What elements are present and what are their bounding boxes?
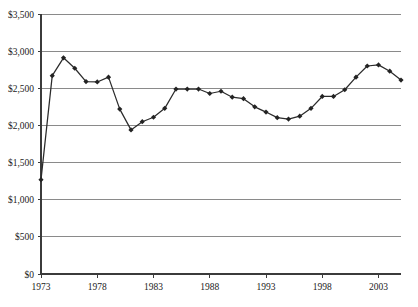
data-point-marker: [331, 94, 336, 99]
y-axis-tick-label: $3,000: [8, 47, 34, 57]
data-point-marker: [263, 109, 268, 114]
data-point-marker: [218, 89, 223, 94]
data-point-marker: [38, 177, 43, 182]
gridlines-group: [41, 14, 401, 274]
y-axis-tick-label: $2,000: [8, 121, 34, 131]
line-chart: $0$500$1,000$1,500$2,000$2,500$3,000$3,5…: [0, 0, 418, 307]
data-point-marker: [106, 75, 111, 80]
data-point-markers: [38, 55, 403, 182]
y-axis-tick-label: $1,500: [8, 158, 34, 168]
y-axis-tick-label: $2,500: [8, 84, 34, 94]
data-series-line: [41, 58, 401, 180]
x-axis-tick-label: 1998: [313, 282, 332, 292]
y-axis-tick-label: $3,500: [8, 10, 34, 20]
data-point-marker: [185, 86, 190, 91]
x-axis-tick-label: 1993: [257, 282, 276, 292]
data-point-marker: [173, 86, 178, 91]
data-point-marker: [95, 79, 100, 84]
y-axis-tick-label: $1,000: [8, 195, 34, 205]
x-axis-tick-label: 1973: [32, 282, 51, 292]
x-axis-tick-label: 2003: [369, 282, 388, 292]
y-axis-tick-labels: $0$500$1,000$1,500$2,000$2,500$3,000$3,5…: [8, 10, 34, 280]
y-axis-tick-label: $0: [25, 270, 35, 280]
data-point-marker: [196, 86, 201, 91]
y-axis-tick-label: $500: [15, 232, 34, 242]
x-axis-tick-label: 1978: [88, 282, 107, 292]
data-point-marker: [275, 115, 280, 120]
x-axis-tick-labels: 1973197819831988199319982003: [32, 282, 389, 292]
data-point-marker: [117, 106, 122, 111]
data-point-marker: [207, 91, 212, 96]
data-point-marker: [230, 95, 235, 100]
x-axis-tick-label: 1983: [144, 282, 163, 292]
data-point-marker: [286, 117, 291, 122]
data-point-marker: [376, 62, 381, 67]
x-axis-tick-label: 1988: [200, 282, 219, 292]
chart-container: $0$500$1,000$1,500$2,000$2,500$3,000$3,5…: [0, 0, 418, 307]
